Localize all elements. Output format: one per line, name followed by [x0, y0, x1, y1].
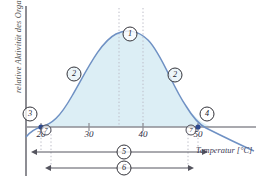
callout-7-pejus-right: 7 — [186, 125, 197, 136]
temperature-activity-chart: relative Aktivität des Organismus Temper… — [0, 0, 261, 180]
y-axis-label: relative Aktivität des Organismus — [14, 0, 23, 105]
callout-5-tolerance-range: 5 — [117, 145, 132, 160]
callout-2-right-slope: 2 — [168, 68, 183, 83]
callout-4-maximum: 4 — [200, 107, 215, 122]
curve-fill — [30, 31, 216, 127]
callout-7-pejus-left: 7 — [41, 125, 52, 136]
x-tick-label-40: 40 — [139, 129, 148, 139]
x-axis-label: Temperatur [°C] — [196, 146, 252, 155]
callout-2-left-slope: 2 — [67, 67, 82, 82]
callout-1-optimum: 1 — [123, 27, 138, 42]
x-tick-label-30: 30 — [85, 129, 94, 139]
callout-6-preference-range: 6 — [117, 161, 132, 176]
callout-3-minimum: 3 — [23, 107, 38, 122]
